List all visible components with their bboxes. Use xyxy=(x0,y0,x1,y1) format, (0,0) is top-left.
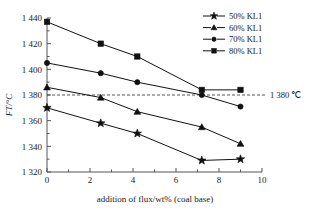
data-point-star xyxy=(236,155,244,163)
y-tick-labels: 1 3201 3401 3601 3801 4001 4201 440 xyxy=(22,13,43,177)
x-tick-label: 10 xyxy=(258,175,268,185)
data-point-square xyxy=(212,49,217,54)
series-path xyxy=(47,63,241,107)
y-tick-label: 1 420 xyxy=(22,39,43,49)
threshold-label: 1 380 ℃ xyxy=(270,90,301,100)
x-tick-label: 8 xyxy=(217,175,222,185)
data-point-circle xyxy=(212,37,216,41)
y-tick-label: 1 360 xyxy=(22,116,43,126)
data-point-circle xyxy=(199,92,204,97)
x-tick-label: 0 xyxy=(45,175,50,185)
x-tick-label: 6 xyxy=(174,175,179,185)
legend-label: 70% KL1 xyxy=(229,34,262,44)
chart-figure: FT/°C addition of flux/wt% (coal base) 1… xyxy=(0,0,310,208)
series-star xyxy=(43,103,245,164)
data-point-circle xyxy=(238,104,243,109)
data-point-square xyxy=(238,87,243,92)
data-point-circle xyxy=(135,80,140,85)
series-circle xyxy=(44,60,243,109)
x-axis-label: addition of flux/wt% (coal base) xyxy=(97,194,213,204)
legend-item: 50% KL1 xyxy=(203,11,262,21)
x-tick-label: 4 xyxy=(131,175,136,185)
data-point-square xyxy=(44,19,49,24)
chart-legend: 50% KL160% KL170% KL180% KL1 xyxy=(203,11,262,56)
y-tick-label: 1 380 xyxy=(22,90,43,100)
series-path xyxy=(47,108,241,161)
data-point-triangle xyxy=(237,140,244,146)
legend-label: 80% KL1 xyxy=(229,46,262,56)
y-tick-label: 1 400 xyxy=(22,65,43,75)
data-point-square xyxy=(199,87,204,92)
legend-item: 60% KL1 xyxy=(203,23,262,33)
data-point-triangle xyxy=(44,84,51,90)
data-point-circle xyxy=(98,71,103,76)
data-point-star xyxy=(198,156,206,164)
data-point-square xyxy=(98,41,103,46)
data-point-triangle xyxy=(211,25,217,30)
data-point-triangle xyxy=(134,108,141,114)
data-point-star xyxy=(133,129,141,137)
data-point-circle xyxy=(44,60,49,65)
legend-label: 50% KL1 xyxy=(229,11,262,21)
x-tick-labels: 0246810 xyxy=(45,175,267,185)
y-tick-label: 1 320 xyxy=(22,167,43,177)
y-tick-label: 1 340 xyxy=(22,142,43,152)
legend-item: 70% KL1 xyxy=(203,34,262,44)
y-axis-label: FT/°C xyxy=(4,93,14,118)
legend-label: 60% KL1 xyxy=(229,23,262,33)
legend-item: 80% KL1 xyxy=(203,46,262,56)
data-point-square xyxy=(135,54,140,59)
series-path xyxy=(47,87,241,143)
series-square xyxy=(44,19,243,92)
data-point-star xyxy=(210,12,218,19)
series-path xyxy=(47,22,241,90)
x-tick-label: 2 xyxy=(88,175,93,185)
y-tick-label: 1 440 xyxy=(22,13,43,23)
data-point-star xyxy=(97,119,105,127)
